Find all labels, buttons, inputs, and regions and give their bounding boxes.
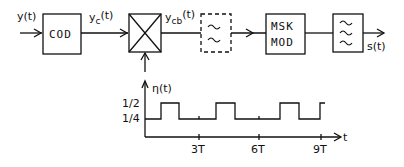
xtick-9T: 9T — [313, 143, 327, 156]
ytick-high: 1/2 — [122, 97, 140, 110]
block-diagram: y(t) COD yc(t) ycb(t) MSK MOD s(t) η(t) … — [0, 0, 404, 167]
modulator-label-line1: MSK — [271, 20, 294, 33]
y-axis-label: η(t) — [152, 82, 172, 95]
x-axis-label: t — [343, 131, 348, 144]
eta-waveform — [145, 103, 325, 119]
input-signal-label: y(t) — [17, 10, 36, 23]
coder-label: COD — [49, 28, 72, 41]
ytick-low: 1/4 — [122, 112, 140, 125]
prefilter-block — [201, 14, 231, 52]
mixed-signal-label: ycb(t) — [165, 8, 195, 26]
xtick-6T: 6T — [251, 143, 265, 156]
coded-signal-label: yc(t) — [89, 9, 113, 26]
bandpass-filter-block — [333, 14, 363, 52]
xtick-3T: 3T — [191, 143, 205, 156]
modulator-label-line2: MOD — [271, 36, 294, 49]
output-signal-label: s(t) — [367, 40, 386, 53]
